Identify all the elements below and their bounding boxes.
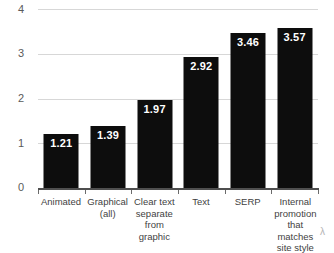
y-tick-label-4: 4 <box>0 4 24 15</box>
x-label-graphical-all: Graphical (all) <box>83 196 133 219</box>
bar-slot-0: 1.21 <box>38 9 85 188</box>
x-axis-tick-5 <box>271 190 272 194</box>
x-label-line: site style <box>268 242 322 253</box>
bar-serp[interactable]: 3.46 <box>230 33 265 188</box>
bar-slot-3: 2.92 <box>178 9 225 188</box>
y-tick-label-1: 1 <box>0 138 24 149</box>
bar-value-label: 3.57 <box>277 31 312 43</box>
x-label-line: Animated <box>36 196 86 208</box>
bar-text[interactable]: 2.92 <box>184 57 219 188</box>
bar-value-label: 1.97 <box>137 103 172 115</box>
bar-value-label: 1.39 <box>90 129 125 141</box>
bars-layer: 1.21 1.39 1.97 2.92 3.46 3.57 <box>38 9 318 188</box>
bar-slot-4: 3.46 <box>225 9 272 188</box>
x-label-clear-text-separate: Clear text separate from graphic <box>129 196 179 242</box>
x-label-line: SERP <box>223 196 273 208</box>
bar-value-label: 2.92 <box>184 60 219 72</box>
x-label-line: Clear text <box>129 196 179 208</box>
x-axis-tick-2 <box>131 190 132 194</box>
bar-slot-2: 1.97 <box>131 9 178 188</box>
y-tick-label-2: 2 <box>0 93 24 104</box>
bar-slot-1: 1.39 <box>85 9 132 188</box>
x-label-text: Text <box>176 196 226 208</box>
x-label-line: (all) <box>83 208 133 220</box>
x-label-line: separate <box>129 208 179 220</box>
x-axis-tick-4 <box>225 190 226 194</box>
x-label-line: promotion <box>268 208 322 220</box>
bar-value-label: 1.21 <box>44 137 79 149</box>
bar-graphical-all[interactable]: 1.39 <box>90 126 125 188</box>
x-axis-tick-6 <box>318 190 319 194</box>
x-label-internal-promotion: Internal promotion that matches site sty… <box>268 196 322 253</box>
lambda-glyph: λ <box>320 226 325 237</box>
x-label-serp: SERP <box>223 196 273 208</box>
bar-internal-promotion[interactable]: 3.57 <box>277 28 312 188</box>
bar-chart: 4 3 2 1 0 1.21 1.39 1.97 2.92 <box>0 0 334 253</box>
x-label-line: Internal <box>268 196 322 208</box>
x-label-line: that matches <box>268 219 322 242</box>
y-tick-label-3: 3 <box>0 48 24 59</box>
bar-slot-5: 3.57 <box>271 9 318 188</box>
bar-clear-text-separate[interactable]: 1.97 <box>137 100 172 188</box>
x-axis-tick-0 <box>38 190 39 194</box>
x-label-line: Text <box>176 196 226 208</box>
x-label-animated: Animated <box>36 196 86 208</box>
x-axis-tick-3 <box>178 190 179 194</box>
x-label-line: from graphic <box>129 219 179 242</box>
y-tick-label-0: 0 <box>0 182 24 193</box>
x-axis-labels: Animated Graphical (all) Clear text sepa… <box>38 196 318 253</box>
bar-value-label: 3.46 <box>230 36 265 48</box>
x-label-line: Graphical <box>83 196 133 208</box>
bar-animated[interactable]: 1.21 <box>44 134 79 188</box>
x-axis-tick-1 <box>85 190 86 194</box>
